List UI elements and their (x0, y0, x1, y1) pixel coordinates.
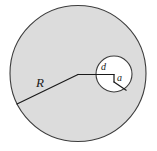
offset-distance-label: d (101, 62, 106, 72)
figure-container: R d a (0, 0, 157, 151)
outer-radius-label: R (36, 76, 44, 89)
inner-radius-label: a (117, 73, 122, 83)
disk-with-hole-diagram (0, 0, 157, 151)
